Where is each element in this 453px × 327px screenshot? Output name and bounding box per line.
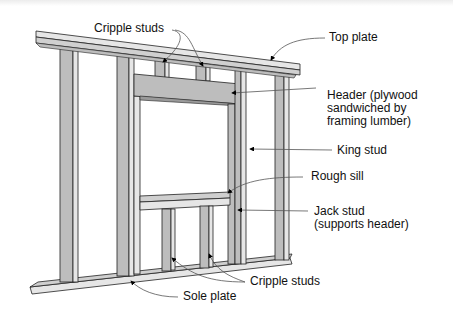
arrow-king-stud: [250, 149, 332, 150]
label-header-line3: framing lumber): [327, 115, 411, 128]
label-rough-sill: Rough sill: [311, 170, 364, 183]
cripple-stud-bottom-1: [162, 209, 175, 271]
king-stud-right: [235, 68, 246, 264]
jack-stud-left: [134, 96, 140, 274]
arrow-jack-stud: [238, 210, 308, 211]
end-stud-left: [60, 46, 78, 282]
label-king-stud: King stud: [337, 144, 387, 157]
arrow-top-plate: [271, 38, 325, 60]
label-sole-plate: Sole plate: [183, 290, 236, 303]
label-top-plate: Top plate: [329, 31, 378, 44]
arrow-sole-plate: [131, 281, 178, 297]
label-jack-stud-line2: (supports header): [314, 218, 409, 231]
wall-framing-diagram: [0, 0, 453, 327]
label-cripple-studs-bottom: Cripple studs: [250, 275, 320, 288]
king-stud-left: [117, 54, 134, 276]
label-cripple-studs-top: Cripple studs: [94, 22, 164, 35]
header: [134, 74, 240, 106]
jack-stud-right: [228, 104, 235, 264]
rough-sill: [140, 192, 230, 210]
end-stud-right: [275, 74, 289, 260]
